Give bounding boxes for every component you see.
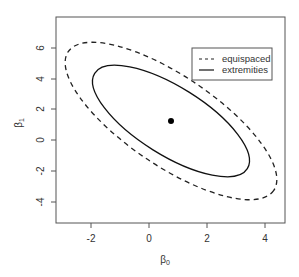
y-tick-label: 4	[35, 76, 46, 82]
y-tick-label: 6	[35, 45, 46, 51]
y-tick-label: 0	[35, 137, 46, 143]
legend-label-extremities: extremities	[222, 64, 268, 75]
y-axis	[51, 48, 56, 202]
x-tick-label: 2	[204, 233, 210, 244]
y-tick-label: 2	[35, 106, 46, 112]
legend: equispaced extremities	[192, 48, 272, 80]
x-tick-label: 4	[262, 233, 268, 244]
legend-label-equispaced: equispaced	[222, 53, 271, 64]
x-tick-label: 0	[146, 233, 152, 244]
ellipse-chart: -4 -2 0 2 4 6 -2 0 2 4 β0 β1 equispaced	[0, 0, 299, 277]
y-axis-label: β1	[13, 118, 25, 128]
y-tick-label: -2	[35, 166, 46, 175]
x-axis-label: β0	[160, 254, 170, 266]
x-tick-label: -2	[87, 233, 96, 244]
y-tick-label: -4	[35, 197, 46, 206]
center-point	[168, 118, 174, 124]
x-axis	[91, 223, 265, 228]
